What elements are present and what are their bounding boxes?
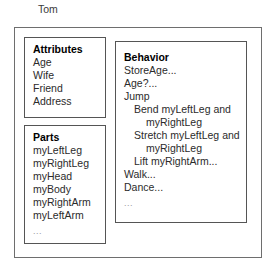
compartment-behavior: Behavior StoreAge... Age?... Jump Bend m… [115,41,247,223]
attributes-more-ellipsis: ... [25,111,105,118]
list-item: Wife [25,69,105,82]
compartment-parts: Parts myLeftLeg myRightLeg myHead myBody… [24,125,106,244]
object-frame: Attributes Age Wife Friend Address ... P… [14,27,262,258]
list-item: myRightArm [25,196,105,209]
compartment-attributes-title: Attributes [25,43,105,56]
compartment-attributes: Attributes Age Wife Friend Address ... [24,37,106,118]
list-item: myHead [25,170,105,183]
list-item: Address [25,95,105,108]
parts-more-ellipsis: ... [25,225,105,238]
list-item: Dance... [116,181,246,194]
list-item: Age?... [116,77,246,90]
list-item: myLeftLeg [25,144,105,157]
list-item: StoreAge... [116,64,246,77]
list-item: myLeftArm [25,209,105,222]
compartment-behavior-title: Behavior [116,51,246,64]
compartment-parts-title: Parts [25,131,105,144]
list-item: myRightLeg [116,142,246,155]
list-item: Lift myRightArm... [116,155,246,168]
list-item: myBody [25,183,105,196]
list-item: Jump [116,90,246,103]
object-title: Tom [38,3,58,16]
list-item: myRightLeg [25,157,105,170]
list-item: Friend [25,82,105,95]
list-item: Bend myLeftLeg and [116,103,246,116]
behavior-more-ellipsis: ... [116,197,246,210]
list-item: Walk... [116,168,246,181]
list-item: myRightLeg [116,116,246,129]
list-item: Age [25,56,105,69]
list-item: Stretch myLeftLeg and [116,129,246,142]
